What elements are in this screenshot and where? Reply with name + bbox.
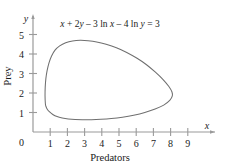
predator-prey-plot: 1 2 3 4 5 6 7 8 9 1 2 3 4 5 0	[0, 0, 228, 164]
y-axis-title: Prey	[2, 66, 13, 86]
x-tick-label: 2	[65, 138, 70, 149]
phase-orbit-curve	[45, 40, 172, 119]
y-axis-arrow-icon	[31, 14, 34, 19]
y-tick-label: 4	[19, 49, 24, 60]
x-axis-arrow-icon	[210, 130, 215, 134]
x-axis-tick-labels: 1 2 3 4 5 6 7 8 9	[48, 138, 191, 149]
x-tick-label: 3	[82, 138, 87, 149]
y-tick-label: 1	[19, 108, 24, 119]
x-axis-title: Predators	[90, 152, 130, 163]
equation-part: – 4 ln	[114, 19, 140, 29]
equation-part: = 3	[145, 19, 160, 29]
phase-plane-figure: 1 2 3 4 5 6 7 8 9 1 2 3 4 5 0	[0, 0, 228, 164]
y-axis-tick-labels: 1 2 3 4 5	[19, 30, 24, 119]
equation-annotation: x + 2y – 3 ln x – 4 ln y = 3	[59, 19, 160, 29]
x-tick-label: 7	[151, 138, 156, 149]
x-tick-label: 5	[117, 138, 122, 149]
x-tick-label: 8	[168, 138, 173, 149]
equation-part: – 3 ln	[84, 19, 110, 29]
x-tick-label: 9	[185, 138, 190, 149]
x-tick-label: 4	[99, 138, 104, 149]
y-tick-label: 2	[19, 88, 24, 99]
y-axis-symbol-label: y	[23, 13, 29, 24]
x-axis-symbol-label: x	[204, 120, 210, 131]
y-tick-label: 5	[19, 30, 24, 41]
x-tick-label: 1	[48, 138, 53, 149]
origin-label: 0	[19, 137, 24, 148]
equation-part: + 2	[65, 19, 80, 29]
x-tick-label: 6	[134, 138, 139, 149]
y-tick-label: 3	[19, 69, 24, 80]
